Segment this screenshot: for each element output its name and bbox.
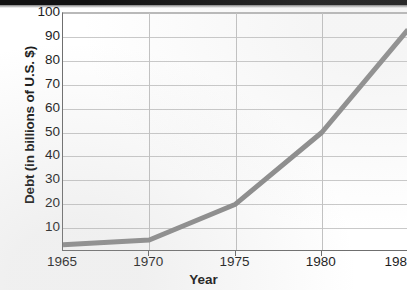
- y-tick-label: 70: [14, 77, 60, 91]
- y-tick-label: 20: [14, 196, 60, 210]
- y-tick-label: 90: [14, 29, 60, 43]
- data-line-series: [63, 13, 407, 251]
- x-tick-mark: [321, 251, 322, 256]
- x-axis-tick-labels: 1965197019751980198: [0, 254, 407, 274]
- y-tick-label: 50: [14, 125, 60, 139]
- x-tick-mark: [235, 251, 236, 256]
- x-tick-label: 1965: [47, 254, 77, 269]
- x-tick-label: 1970: [133, 254, 163, 269]
- x-tick-label: 1980: [306, 254, 336, 269]
- line-chart: Debt (in billions of U.S. $) 10203040506…: [0, 0, 407, 290]
- y-tick-label: 10: [14, 220, 60, 234]
- y-tick-label: 100: [14, 5, 60, 19]
- y-tick-label: 30: [14, 172, 60, 186]
- x-tick-label: 198: [384, 254, 407, 269]
- plot-area: [62, 12, 407, 251]
- y-tick-label: 40: [14, 148, 60, 162]
- x-tick-mark: [148, 251, 149, 256]
- y-axis-tick-labels: 102030405060708090100: [14, 0, 60, 290]
- y-tick-label: 60: [14, 101, 60, 115]
- x-axis-title: Year: [0, 272, 407, 287]
- y-tick-label: 80: [14, 53, 60, 67]
- x-tick-label: 1975: [219, 254, 249, 269]
